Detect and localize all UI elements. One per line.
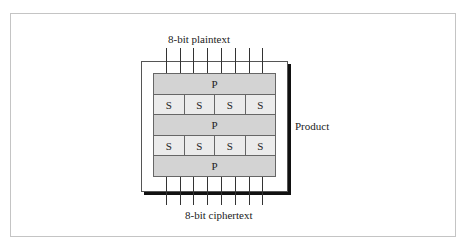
input-wire — [249, 61, 250, 73]
product-box-shadow — [288, 64, 291, 195]
s-box-row: S S S S — [154, 136, 275, 156]
output-wire — [262, 177, 263, 205]
s-box: S — [215, 95, 246, 114]
output-wire — [235, 177, 236, 205]
output-wire — [207, 177, 208, 205]
s-box: S — [246, 136, 276, 155]
p-box: P — [154, 156, 275, 176]
input-wire — [180, 61, 181, 73]
output-wire — [221, 177, 222, 205]
input-wire — [262, 61, 263, 73]
ciphertext-label: 8-bit ciphertext — [185, 209, 253, 221]
s-box: S — [185, 95, 216, 114]
s-box: S — [154, 136, 185, 155]
s-box-row: S S S S — [154, 95, 275, 115]
plaintext-label: 8-bit plaintext — [168, 33, 230, 45]
output-wire — [180, 177, 181, 205]
s-box: S — [215, 136, 246, 155]
s-box: S — [154, 95, 185, 114]
input-wire — [221, 61, 222, 73]
p-box: P — [154, 74, 275, 95]
input-wire — [235, 61, 236, 73]
p-box: P — [154, 115, 275, 136]
output-wire — [249, 177, 250, 205]
product-label: Product — [295, 120, 329, 132]
input-wire — [207, 61, 208, 73]
output-wire — [193, 177, 194, 205]
s-box: S — [246, 95, 276, 114]
input-wire — [193, 61, 194, 73]
s-box: S — [185, 136, 216, 155]
input-wire — [166, 61, 167, 73]
sp-network-stack: P S S S S P S S S S P — [153, 73, 276, 177]
output-wire — [166, 177, 167, 205]
